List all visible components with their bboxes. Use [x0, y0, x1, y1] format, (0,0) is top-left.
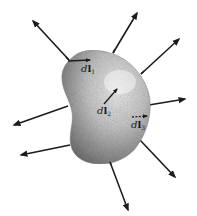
arrow-lower-right — [140, 140, 175, 177]
label-dl1-sub: 1 — [91, 68, 95, 75]
label-dl3: dl3 — [131, 120, 145, 131]
arrow-upper-right — [141, 39, 179, 74]
label-dl2: dl2 — [97, 106, 111, 117]
label-dl1: dl1 — [81, 64, 95, 75]
arrow-right — [149, 99, 185, 105]
body-highlight — [104, 70, 136, 94]
arrow-bottom — [110, 162, 128, 210]
arrow-lower-left — [21, 145, 70, 155]
arrow-top — [113, 13, 137, 53]
stub-upper-left — [66, 57, 69, 60]
label-dl2-sub: 2 — [107, 110, 111, 117]
stub-top — [113, 49, 115, 53]
label-dl3-sub: 3 — [141, 124, 145, 131]
stub-bottom — [110, 162, 111, 165]
stub-upper-right — [141, 71, 144, 74]
arrow-left — [14, 106, 68, 125]
arrow-upper-left — [33, 21, 69, 60]
